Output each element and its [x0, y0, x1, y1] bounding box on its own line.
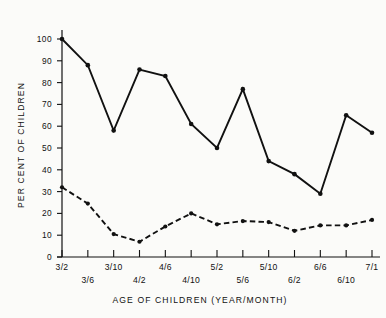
- data-point-marker: [163, 224, 167, 228]
- solid-line-series-path: [62, 39, 372, 194]
- x-axis-tick-labels: 3/23/63/104/24/64/105/25/65/106/26/66/10…: [56, 262, 379, 285]
- dashed-line-series-path: [62, 187, 372, 242]
- data-point-marker: [112, 232, 116, 236]
- data-point-marker: [344, 113, 349, 118]
- data-point-marker: [241, 87, 246, 92]
- x-tick-label: 6/2: [288, 275, 301, 285]
- x-tick-label: 5/2: [211, 262, 224, 272]
- y-tick-label: 20: [42, 208, 52, 218]
- x-tick-label: 4/10: [182, 275, 200, 285]
- x-tick-label: 3/6: [81, 275, 94, 285]
- data-point-marker: [241, 219, 245, 223]
- data-point-marker: [318, 223, 322, 227]
- data-point-marker: [344, 223, 348, 227]
- y-tick-label: 40: [42, 165, 52, 175]
- x-tick-label: 4/2: [133, 275, 146, 285]
- data-point-marker: [137, 67, 142, 72]
- data-point-marker: [266, 159, 271, 164]
- y-tick-label: 10: [42, 230, 52, 240]
- data-point-marker: [111, 128, 116, 133]
- y-tick-label: 0: [47, 252, 52, 262]
- x-axis-ticks: [62, 250, 372, 257]
- x-tick-label: 7/1: [366, 262, 379, 272]
- data-point-marker: [370, 218, 374, 222]
- x-tick-label: 3/10: [105, 262, 123, 272]
- data-point-marker: [189, 211, 193, 215]
- x-tick-label: 5/6: [236, 275, 249, 285]
- data-point-marker: [292, 229, 296, 233]
- x-tick-label: 6/10: [337, 275, 355, 285]
- data-point-marker: [163, 74, 168, 79]
- y-axis-ticks: 0102030405060708090100: [37, 34, 62, 262]
- data-point-marker: [370, 130, 375, 135]
- data-point-marker: [318, 191, 323, 196]
- data-point-marker: [86, 201, 90, 205]
- chart-figure: PER CENT OF CHILDREN 0102030405060708090…: [0, 0, 386, 318]
- data-point-marker: [60, 37, 65, 42]
- data-point-marker: [60, 185, 64, 189]
- data-point-marker: [292, 172, 297, 177]
- data-point-marker: [215, 222, 219, 226]
- y-tick-label: 90: [42, 56, 52, 66]
- data-point-marker: [215, 146, 220, 151]
- x-tick-label: 6/6: [314, 262, 327, 272]
- data-point-marker: [267, 220, 271, 224]
- y-tick-label: 50: [42, 143, 52, 153]
- line-chart: PER CENT OF CHILDREN 0102030405060708090…: [0, 0, 386, 318]
- y-tick-label: 30: [42, 187, 52, 197]
- y-axis-title: PER CENT OF CHILDREN: [16, 82, 26, 208]
- data-point-marker: [86, 63, 91, 68]
- data-point-marker: [189, 122, 194, 127]
- data-point-marker: [137, 240, 141, 244]
- y-tick-label: 100: [37, 34, 52, 44]
- x-tick-label: 3/2: [56, 262, 69, 272]
- y-tick-label: 70: [42, 99, 52, 109]
- y-tick-label: 60: [42, 121, 52, 131]
- x-axis-title: AGE OF CHILDREN (YEAR/MONTH): [113, 295, 288, 305]
- y-tick-label: 80: [42, 78, 52, 88]
- dashed-line-series-markers: [60, 185, 374, 244]
- x-tick-label: 4/6: [159, 262, 172, 272]
- x-tick-label: 5/10: [260, 262, 278, 272]
